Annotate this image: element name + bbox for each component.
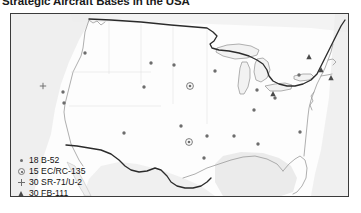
map-marker-b52: [122, 131, 125, 134]
circled-dot-marker-icon: [17, 166, 29, 177]
legend-label-sr71-u2: 30 SR-71/U-2: [29, 177, 82, 188]
triangle-marker-icon: [17, 188, 29, 197]
legend-label-b52: 18 B-52: [29, 155, 59, 166]
dot-marker-icon: [17, 155, 29, 166]
legend-label-fb111: 30 FB-111: [29, 188, 68, 197]
figure-container: Strategic Aircraft Bases in the USA: [0, 0, 361, 213]
map-marker-b52: [232, 134, 235, 137]
map-marker-b52: [62, 101, 65, 104]
map-marker-b52: [256, 142, 259, 145]
legend-label-ec-rc-135: 15 EC/RC-135: [29, 166, 86, 177]
map-legend: 18 B-52 15 EC/RC-135 30 SR-71/U-2 30 FB-…: [15, 153, 139, 197]
map-marker-b52: [255, 88, 258, 91]
map-marker-b52: [142, 85, 145, 88]
map-marker-b52: [202, 156, 205, 159]
map-marker-b52: [252, 108, 255, 111]
map-marker-ec-rc-135: [188, 141, 191, 144]
legend-item-ec-rc-135: 15 EC/RC-135: [17, 166, 137, 177]
map-marker-b52: [83, 51, 86, 54]
map-marker-b52: [179, 124, 182, 127]
map-frame: 18 B-52 15 EC/RC-135 30 SR-71/U-2 30 FB-…: [10, 13, 349, 197]
map-marker-ec-rc-135: [189, 85, 192, 88]
map-marker-b52: [172, 63, 175, 66]
page-title: Strategic Aircraft Bases in the USA: [2, 0, 352, 9]
map-marker-b52: [297, 73, 300, 76]
map-marker-b52: [205, 134, 208, 137]
map-marker-b52: [61, 90, 64, 93]
legend-item-b52: 18 B-52: [17, 155, 137, 166]
map-marker-b52: [298, 130, 301, 133]
legend-item-sr71-u2: 30 SR-71/U-2: [17, 177, 137, 188]
legend-item-fb111: 30 FB-111: [17, 188, 137, 197]
map-marker-b52: [149, 61, 152, 64]
map-marker-b52: [213, 69, 216, 72]
map-marker-b52: [273, 96, 276, 99]
plus-marker-icon: [17, 177, 29, 188]
